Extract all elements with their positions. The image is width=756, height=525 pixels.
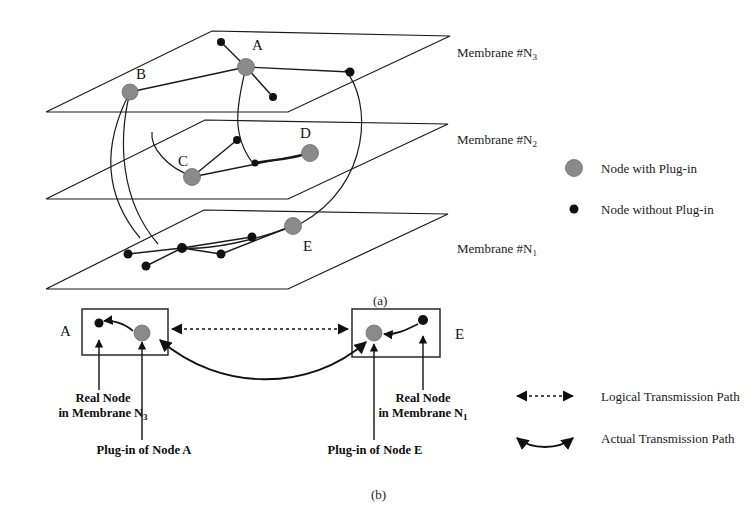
panel-b-plugin-node-e bbox=[366, 325, 382, 341]
legend-plain-marker bbox=[570, 205, 579, 214]
legend-label-logical-path: Logical Transmission Path bbox=[601, 389, 740, 405]
caption-plugin-left: Plug-in of Node A bbox=[84, 443, 204, 458]
links-membrane-n1 bbox=[128, 228, 288, 266]
membrane-plane-n1 bbox=[46, 210, 448, 289]
panel-b-real-node-a bbox=[95, 319, 104, 328]
panel-a-label: (a) bbox=[373, 293, 387, 309]
membrane-label-n1: Membrane #N1 bbox=[457, 241, 537, 258]
node-A bbox=[238, 59, 255, 76]
caption-pointer-arrows bbox=[99, 336, 423, 440]
legend-plugin-marker bbox=[566, 160, 583, 177]
legend-label-actual-path: Actual Transmission Path bbox=[601, 431, 735, 447]
node-label-E: E bbox=[303, 238, 312, 255]
node-C bbox=[184, 169, 201, 186]
membrane-label-n2: Membrane #N2 bbox=[457, 132, 537, 149]
node-label-D: D bbox=[300, 125, 311, 142]
panel-b-left-box bbox=[82, 309, 168, 355]
panel-b-label: (b) bbox=[371, 487, 386, 503]
membrane-plane-n2 bbox=[46, 120, 448, 199]
legend-actual-marker bbox=[517, 438, 573, 447]
panel-b-right-inner-arrow bbox=[384, 324, 418, 334]
membrane-label-n3: Membrane #N3 bbox=[457, 45, 537, 62]
node-label-A: A bbox=[252, 37, 263, 54]
node-B bbox=[122, 84, 138, 100]
node-label-C: C bbox=[178, 153, 188, 170]
panel-b-label-A: A bbox=[60, 323, 71, 340]
caption-real-node-left: Real Node in Membrane N3 bbox=[55, 391, 151, 422]
legend-label-node-with-plugin: Node with Plug-in bbox=[601, 161, 697, 177]
node-E bbox=[285, 218, 302, 235]
actual-transmission-path bbox=[160, 340, 366, 379]
panel-b-left-inner-arrow bbox=[104, 321, 133, 331]
inter-membrane-curves bbox=[111, 67, 362, 244]
legend-label-node-without-plugin: Node without Plug-in bbox=[601, 202, 714, 218]
node-label-B: B bbox=[136, 66, 146, 83]
node-D bbox=[302, 145, 319, 162]
caption-plugin-right: Plug-in of Node E bbox=[315, 443, 435, 458]
legend-path-markers bbox=[517, 396, 573, 447]
legend-node-markers bbox=[566, 160, 583, 214]
plain-nodes bbox=[124, 38, 355, 271]
panel-b-plugin-node-a bbox=[134, 325, 150, 341]
panel-b-label-E: E bbox=[455, 326, 464, 343]
links-membrane-n2 bbox=[192, 140, 310, 177]
caption-real-node-right: Real Node in Membrane N1 bbox=[375, 391, 471, 422]
panel-b-real-node-e bbox=[418, 315, 428, 325]
